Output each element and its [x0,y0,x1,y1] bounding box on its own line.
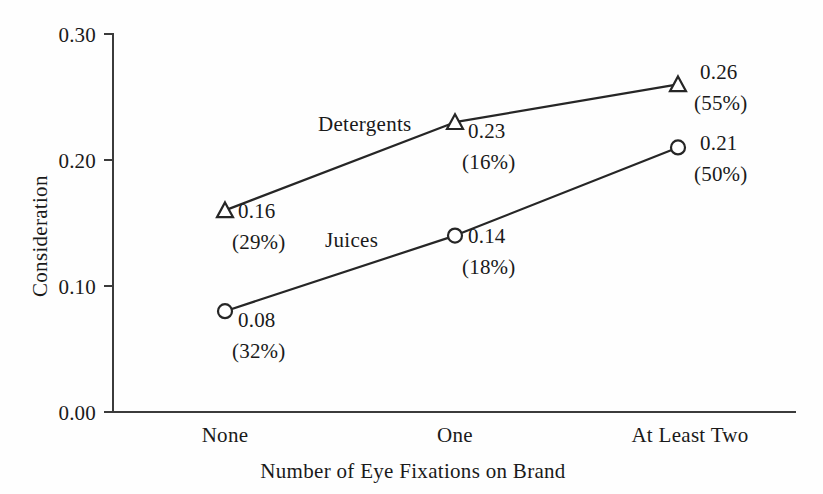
chart-figure: 0.30 0.20 0.10 0.00 Consideration None O… [0,0,823,494]
point-percent-detergents-2: (55%) [694,93,747,114]
x-tick-label-one: One [375,425,535,446]
marker-detergents-2 [670,76,686,91]
point-value-detergents-0: 0.16 [238,201,276,222]
x-tick-label-at-least-two: At Least Two [610,425,770,446]
x-tick-label-none: None [145,425,305,446]
point-value-detergents-1: 0.23 [468,121,506,142]
series-label-juices: Juices [325,230,378,251]
y-tick-label-000: 0.00 [34,403,96,424]
point-percent-juices-2: (50%) [694,164,747,185]
point-value-juices-1: 0.14 [468,226,506,247]
y-axis-title: Consideration [30,175,51,297]
point-value-juices-0: 0.08 [238,310,276,331]
y-tick-label-020: 0.20 [34,151,96,172]
point-value-detergents-2: 0.26 [700,62,738,83]
marker-juices-1 [448,229,462,243]
point-value-juices-2: 0.21 [700,133,738,154]
marker-juices-0 [218,304,232,318]
x-axis-title: Number of Eye Fixations on Brand [213,461,613,482]
marker-detergents-0 [217,202,233,217]
point-percent-juices-1: (18%) [462,257,515,278]
marker-juices-2 [671,140,685,154]
y-tick-label-030: 0.30 [34,25,96,46]
series-label-detergents: Detergents [318,114,412,135]
series-line-detergents [225,84,678,210]
point-percent-detergents-1: (16%) [462,152,515,173]
point-percent-juices-0: (32%) [232,341,285,362]
point-percent-detergents-0: (29%) [232,232,285,253]
